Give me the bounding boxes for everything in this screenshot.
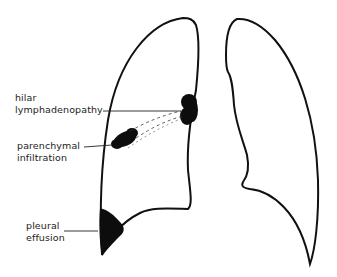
label-parenchymal-infiltration: parenchymal infiltration (17, 140, 80, 164)
parenchymal-infiltration (111, 128, 139, 151)
label-hilar-lymphadenopathy: hilar lymphadenopathy (15, 92, 103, 116)
hilar-mass (180, 94, 198, 125)
label-pleural-effusion: pleural effusion (26, 220, 65, 244)
label-line: infiltration (17, 152, 80, 164)
label-line: effusion (26, 232, 65, 244)
lymphatic-dashes-2 (136, 116, 183, 138)
pleural-effusion-shading (99, 208, 123, 256)
label-line: pleural (26, 220, 65, 232)
label-line: hilar (15, 92, 103, 104)
label-line: lymphadenopathy (15, 104, 103, 116)
lymphatic-dashes-1 (130, 111, 181, 131)
parenchymal-leader-line (84, 145, 112, 147)
left-lung-outline (226, 19, 318, 264)
label-line: parenchymal (17, 140, 80, 152)
